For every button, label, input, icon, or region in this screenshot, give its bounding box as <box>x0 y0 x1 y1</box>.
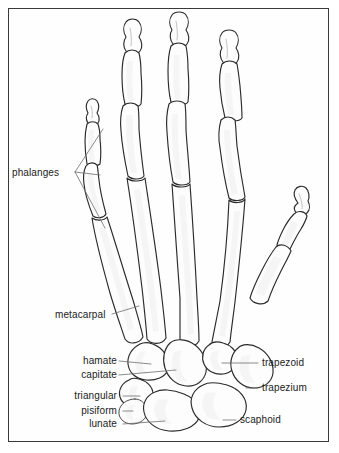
label-hamate: hamate <box>57 355 117 366</box>
label-scaphoid: scaphoid <box>240 414 281 425</box>
label-pisiform: pisiform <box>50 405 117 416</box>
bone-little-finger <box>84 99 106 218</box>
label-phalanges: phalanges <box>12 167 59 178</box>
label-metacarpal: metacarpal <box>55 309 105 320</box>
bone-ring-finger <box>121 19 144 179</box>
label-trapezium: trapezium <box>262 382 307 393</box>
label-lunate: lunate <box>57 418 117 429</box>
label-capitate: capitate <box>52 369 117 380</box>
bone-middle-finger <box>167 12 190 185</box>
bone-thumb <box>250 186 309 304</box>
hand-bones-figure: phalanges metacarpal hamate capitate tri… <box>0 0 339 453</box>
label-triangular: triangular <box>45 390 117 401</box>
bone-index-finger <box>219 30 245 201</box>
bone-metacarpals <box>92 178 245 347</box>
label-trapezoid: trapezoid <box>262 357 304 368</box>
